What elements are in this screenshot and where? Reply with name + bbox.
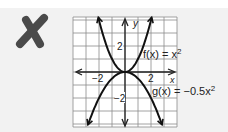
svg-text:2: 2 xyxy=(148,73,154,84)
svg-text:−2: −2 xyxy=(114,93,126,104)
svg-text:2: 2 xyxy=(117,41,123,52)
f-label: f(x) = x2 xyxy=(143,47,182,60)
graph: −222−2 y x f(x) = x2 g(x) = −0.5x2 xyxy=(0,0,228,132)
g-label: g(x) = −0.5x2 xyxy=(152,84,216,97)
x-axis-label: x xyxy=(169,75,175,85)
svg-text:−2: −2 xyxy=(92,73,104,84)
y-axis-label: y xyxy=(132,18,139,29)
